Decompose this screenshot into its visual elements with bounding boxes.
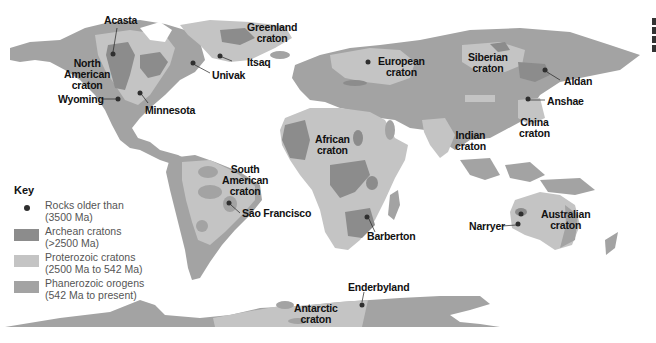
rock-dot-acasta <box>111 52 116 57</box>
label-univak: Univak <box>212 70 245 81</box>
label-australian-craton: Australian craton <box>541 209 590 231</box>
label-narryer: Narryer <box>469 221 505 232</box>
rock-dot-barberton <box>365 215 370 220</box>
rock-dot-itsaq <box>218 54 223 59</box>
label-line: craton <box>64 80 110 91</box>
key-item-rocks: Rocks older than (3500 Ma) <box>14 200 174 223</box>
southeast-asia-islands <box>460 158 595 195</box>
label-sao-francisco: São Francisco <box>242 208 311 219</box>
archean-swatch-icon <box>14 229 39 241</box>
rock-dot-narryer-2 <box>519 212 524 217</box>
label-line: craton <box>294 314 338 325</box>
label-greenland-craton: Greenland craton <box>247 22 297 44</box>
key-item-proterozoic: Proterozoic cratons (2500 Ma to 542 Ma) <box>14 252 174 275</box>
rock-dot-icon <box>24 205 30 211</box>
label-anshae: Anshae <box>547 96 584 107</box>
proterozoic-swatch-icon <box>14 255 39 267</box>
rock-dot-european <box>366 60 371 65</box>
label-line: craton <box>315 145 350 156</box>
label-indian-craton: Indian craton <box>455 130 486 152</box>
key-item-archean: Archean cratons (>2500 Ma) <box>14 226 174 249</box>
map-key: Key Rocks older than (3500 Ma) Archean c… <box>14 184 174 304</box>
label-enderbyland: Enderbyland <box>348 282 409 293</box>
key-text-line: Proterozoic cratons <box>45 252 142 264</box>
north-america-landmass <box>10 20 205 168</box>
label-line: craton <box>455 141 486 152</box>
key-text-line: (3500 Ma) <box>45 212 124 224</box>
label-line: craton <box>222 186 268 197</box>
phanerozoic-swatch-icon <box>14 281 39 293</box>
label-china-craton: China craton <box>519 117 550 139</box>
label-minnesota: Minnesota <box>145 105 195 116</box>
rock-dot-anshae <box>526 97 531 102</box>
label-african-craton: African craton <box>315 134 350 156</box>
rock-dot-univak <box>191 61 196 66</box>
rock-dot-wyoming <box>116 97 121 102</box>
key-text-line: Phanerozoic orogens <box>45 278 144 290</box>
key-text-line: (2500 Ma to 542 Ma) <box>45 264 142 276</box>
label-acasta: Acasta <box>104 15 137 26</box>
label-line: craton <box>378 67 425 78</box>
key-text-line: (542 Ma to present) <box>45 290 144 302</box>
label-north-american-craton: North American craton <box>64 58 110 91</box>
label-south-american-craton: South American craton <box>222 164 268 197</box>
rock-dot-minnesota <box>138 91 143 96</box>
rock-dot-sao-francisco <box>227 201 232 206</box>
key-text-line: Rocks older than <box>45 200 124 212</box>
rock-dot-enderbyland <box>360 303 365 308</box>
label-line: craton <box>247 33 297 44</box>
label-itsaq: Itsaq <box>247 57 271 68</box>
label-line: craton <box>541 220 590 231</box>
label-european-craton: European craton <box>378 56 425 78</box>
label-aldan: Aldan <box>564 76 592 87</box>
africa-landmass <box>280 108 408 250</box>
rock-dot-aldan <box>543 68 548 73</box>
cropped-edge-marks <box>652 18 656 54</box>
key-text-line: Archean cratons <box>45 226 121 238</box>
label-wyoming: Wyoming <box>58 94 104 105</box>
label-antarctic-craton: Antarctic craton <box>294 303 338 325</box>
key-text-line: (>2500 Ma) <box>45 238 121 250</box>
key-item-phanerozoic: Phanerozoic orogens (542 Ma to present) <box>14 278 174 301</box>
label-line: craton <box>468 63 508 74</box>
label-siberian-craton: Siberian craton <box>468 52 508 74</box>
label-barberton: Barberton <box>367 231 415 242</box>
key-title: Key <box>14 184 174 196</box>
label-line: craton <box>519 128 550 139</box>
rock-dot-narryer <box>516 222 521 227</box>
